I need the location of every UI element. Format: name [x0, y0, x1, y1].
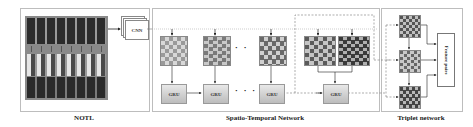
- gru-label: GRU: [168, 92, 179, 97]
- triplet-grid-negative: [399, 86, 421, 109]
- triplet-grid-positive: [399, 50, 421, 73]
- gru-label: GRU: [266, 92, 277, 97]
- notl-label: NOTL: [20, 114, 148, 122]
- feature-grid-1: [160, 36, 188, 66]
- gru-box-2: GRU: [203, 84, 229, 104]
- ellipsis-bottom: ···: [235, 86, 261, 95]
- gru-box-3: GRU: [259, 84, 285, 104]
- feature-grid-4: [304, 36, 336, 66]
- spatio-temporal-label: Spatio-Temporal Network: [152, 114, 378, 122]
- ellipsis-top: ··: [235, 43, 252, 52]
- feature-pairs-label: Feature pairs: [444, 46, 449, 75]
- gru-label: GRU: [210, 92, 221, 97]
- gru-box-1: GRU: [161, 84, 187, 104]
- feature-grid-2: [203, 36, 231, 66]
- triplet-grid-anchor: [399, 15, 421, 38]
- gru-box-4: GRU: [323, 84, 349, 104]
- triplet-label: Triplet network: [381, 114, 461, 122]
- feature-pairs-box: Feature pairs: [437, 33, 455, 87]
- feature-grid-3: [259, 36, 287, 66]
- feature-grid-5: [338, 36, 370, 66]
- gru-label: GRU: [330, 92, 341, 97]
